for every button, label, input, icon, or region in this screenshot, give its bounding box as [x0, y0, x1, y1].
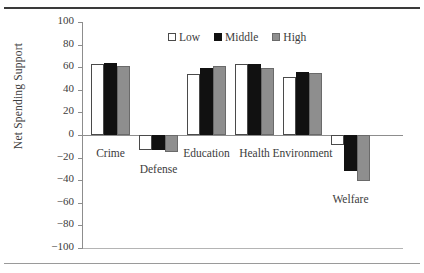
bar-environment-high[interactable] [309, 73, 322, 135]
figure-top-rule [4, 7, 420, 9]
bar-education-high[interactable] [213, 66, 226, 135]
bar-welfare-middle[interactable] [344, 135, 357, 171]
y-axis-tick: 0 [78, 135, 83, 136]
y-axis-tick: −80 [78, 225, 83, 226]
bar-education-low[interactable] [187, 74, 200, 135]
y-axis-tick-label: 0 [69, 127, 75, 139]
y-axis-tick: 60 [78, 67, 83, 68]
y-axis-tick-label: −40 [57, 172, 74, 184]
bar-defense-low[interactable] [139, 135, 152, 150]
y-axis-tick-label: −100 [51, 240, 74, 252]
x-axis-category-label: Crime [77, 147, 144, 159]
bar-crime-low[interactable] [91, 64, 104, 135]
y-axis-tick: 20 [78, 112, 83, 113]
y-axis-tick: 100 [78, 22, 83, 23]
figure-bottom-rule [4, 263, 420, 264]
y-axis-tick-label: −20 [57, 150, 74, 162]
bar-group-welfare: Welfare [331, 22, 370, 248]
y-axis-tick: −60 [78, 203, 83, 204]
figure-container: Net Spending Support LowMiddleHigh 10080… [0, 0, 424, 273]
y-axis-tick: 80 [78, 45, 83, 46]
x-axis-category-label: Defense [125, 163, 192, 175]
bar-crime-middle[interactable] [104, 63, 117, 135]
bar-health-low[interactable] [235, 64, 248, 135]
bar-welfare-high[interactable] [357, 135, 370, 181]
bar-group-defense: Defense [139, 22, 178, 248]
bottom-axis-line [83, 248, 403, 249]
plot-area: 100806040200−20−40−60−80−100CrimeDefense… [83, 22, 403, 248]
bar-crime-high[interactable] [117, 66, 130, 135]
x-axis-category-label: Environment [269, 147, 336, 159]
y-axis-tick-label: 80 [63, 37, 74, 49]
bar-environment-low[interactable] [283, 77, 296, 135]
y-axis-tick-label: 60 [63, 59, 74, 71]
y-axis-tick-label: −60 [57, 195, 74, 207]
y-axis-tick-label: −80 [57, 217, 74, 229]
x-axis-category-label: Welfare [317, 193, 384, 205]
y-axis-title: Net Spending Support [12, 16, 24, 176]
bar-group-crime: Crime [91, 22, 130, 248]
bar-group-health: Health [235, 22, 274, 248]
bar-education-middle[interactable] [200, 68, 213, 135]
bar-group-environment: Environment [283, 22, 322, 248]
bar-health-middle[interactable] [248, 64, 261, 135]
y-axis-tick-label: 40 [63, 82, 74, 94]
y-axis-tick-label: 20 [63, 104, 74, 116]
y-axis-tick: −40 [78, 180, 83, 181]
bar-defense-middle[interactable] [152, 135, 165, 150]
y-axis-tick-label: 100 [58, 14, 75, 26]
y-axis-tick: −100 [78, 248, 83, 249]
bar-group-education: Education [187, 22, 226, 248]
bar-health-high[interactable] [261, 68, 274, 135]
y-axis-tick: 40 [78, 90, 83, 91]
bar-welfare-low[interactable] [331, 135, 344, 145]
bar-environment-middle[interactable] [296, 72, 309, 135]
